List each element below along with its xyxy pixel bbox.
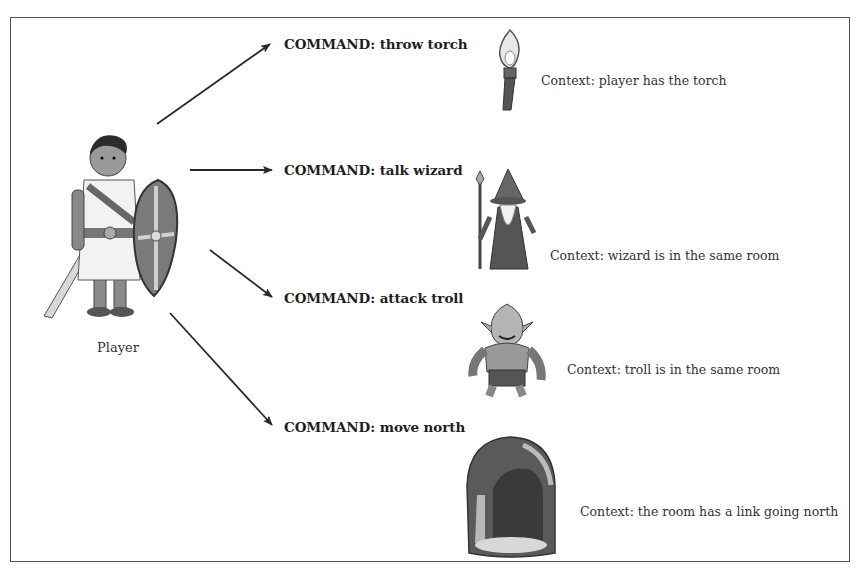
context-torch: Context: player has the torch bbox=[541, 73, 727, 88]
troll-icon bbox=[463, 302, 553, 400]
context-troll: Context: troll is in the same room bbox=[567, 362, 780, 377]
torch-icon bbox=[490, 28, 530, 112]
command-move-north: COMMAND: move north bbox=[284, 419, 465, 435]
command-throw-torch: COMMAND: throw torch bbox=[284, 36, 467, 52]
context-wizard: Context: wizard is in the same room bbox=[550, 248, 779, 263]
player-label: Player bbox=[97, 340, 139, 355]
command-attack-troll: COMMAND: attack troll bbox=[284, 290, 463, 306]
cave-icon bbox=[463, 435, 559, 559]
player-warrior-icon bbox=[36, 130, 206, 330]
arrow-throw-torch bbox=[157, 44, 270, 124]
context-cave: Context: the room has a link going north bbox=[580, 504, 838, 519]
arrow-attack-troll bbox=[210, 250, 272, 297]
command-talk-wizard: COMMAND: talk wizard bbox=[284, 162, 462, 178]
wizard-icon bbox=[458, 167, 548, 272]
